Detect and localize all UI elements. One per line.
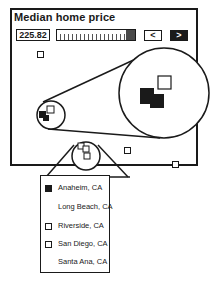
legend-item-santa-ana[interactable]: Santa Ana, CA [45, 255, 107, 269]
legend-panel: Anaheim, CA Long Beach, CA Riverside, CA… [40, 175, 110, 273]
blank-marker-icon [45, 204, 52, 211]
legend-item-anaheim[interactable]: Anaheim, CA [45, 181, 102, 195]
legend-item-riverside[interactable]: Riverside, CA [45, 219, 104, 233]
map-point[interactable] [172, 161, 179, 168]
blank-marker-icon [45, 259, 52, 266]
legend-item-san-diego[interactable]: San Diego, CA [45, 237, 108, 251]
map-point[interactable] [37, 51, 44, 58]
legend-item-long-beach[interactable]: Long Beach, CA [45, 200, 113, 214]
filled-square-icon [45, 185, 52, 192]
hollow-square-icon [45, 223, 52, 230]
large-lens[interactable] [119, 48, 209, 138]
map-point[interactable] [124, 147, 131, 154]
hollow-square-icon [45, 241, 52, 248]
